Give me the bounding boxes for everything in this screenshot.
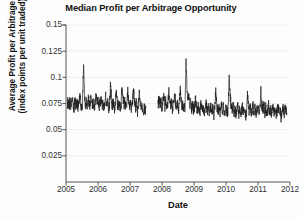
y-tick-marks: [63, 25, 67, 156]
gridlines: [66, 25, 290, 156]
chart-figure: Median Profit per Arbitrage Opportunity …: [0, 0, 302, 219]
x-tick-marks: [66, 182, 290, 186]
series-line: [67, 58, 287, 122]
plot-area: [0, 0, 302, 219]
